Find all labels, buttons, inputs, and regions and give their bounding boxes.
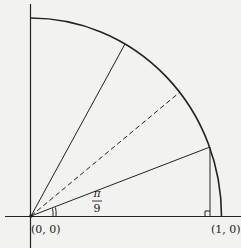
angle-arc-inner	[53, 209, 54, 217]
ray-dashed	[31, 92, 180, 216]
ray-upper	[31, 44, 125, 216]
unit-circle-arc	[31, 18, 222, 217]
angle-label-denominator: 9	[94, 202, 101, 215]
origin-point	[29, 214, 33, 218]
right-angle-marker	[205, 211, 210, 216]
angle-arc-outer	[56, 208, 57, 217]
point-1-0-label: (1, 0)	[211, 223, 241, 236]
ray-pi-over-9	[31, 147, 210, 216]
diagram-canvas: π 9 (0, 0) (1, 0)	[0, 0, 241, 248]
angle-label-numerator: π	[92, 187, 101, 200]
origin-label: (0, 0)	[31, 223, 61, 236]
